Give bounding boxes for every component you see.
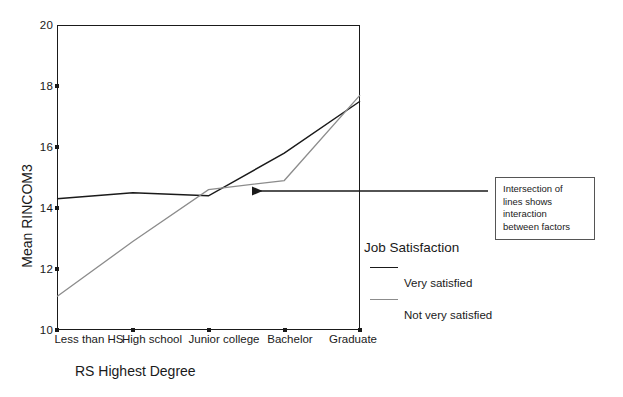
legend-title: Job Satisfaction xyxy=(364,240,514,255)
x-tick-label-bachelor: Bachelor xyxy=(267,333,312,345)
y-tick-label: 14 xyxy=(40,202,53,214)
y-tick-mark xyxy=(55,206,59,210)
legend-item-not-very-satisfied: Not very satisfied xyxy=(364,295,514,327)
plot-area xyxy=(57,25,360,330)
chart-figure: 20 18 16 14 12 10 Less than HS High scho… xyxy=(0,0,623,397)
y-axis-title: Mean RINCOM3 xyxy=(19,151,35,281)
y-tick-mark xyxy=(55,145,59,149)
x-axis-title: RS Highest Degree xyxy=(75,363,196,379)
y-tick-label: 18 xyxy=(40,80,53,92)
x-tick-mark xyxy=(55,328,59,332)
y-tick-mark xyxy=(55,84,59,88)
x-tick-mark xyxy=(283,328,287,332)
x-tick-label-less-than-hs: Less than HS xyxy=(54,333,123,345)
legend-swatch-icon xyxy=(370,299,398,300)
annotation-box: Intersection of lines shows interaction … xyxy=(495,177,595,240)
y-tick-label: 16 xyxy=(40,141,53,153)
y-tick-label: 12 xyxy=(40,263,53,275)
legend-label: Not very satisfied xyxy=(404,309,492,321)
legend: Job Satisfaction Very satisfied Not very… xyxy=(364,240,514,327)
legend-swatch-icon xyxy=(370,267,398,268)
annotation-text: Intersection of lines shows interaction … xyxy=(503,183,588,233)
x-tick-label-junior-college: Junior college xyxy=(189,333,260,345)
x-tick-mark xyxy=(358,328,362,332)
legend-label: Very satisfied xyxy=(404,277,472,289)
x-tick-mark xyxy=(131,328,135,332)
y-tick-label: 20 xyxy=(40,19,53,31)
x-tick-mark xyxy=(207,328,211,332)
legend-item-very-satisfied: Very satisfied xyxy=(364,263,514,295)
y-tick-mark xyxy=(55,267,59,271)
x-tick-label-graduate: Graduate xyxy=(329,333,377,345)
y-tick-label: 10 xyxy=(40,324,53,336)
x-tick-label-high-school: High school xyxy=(122,333,182,345)
